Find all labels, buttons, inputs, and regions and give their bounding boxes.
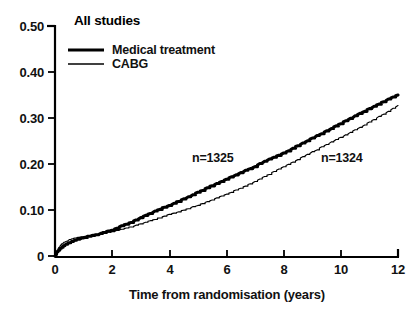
x-tick-label-8: 8: [270, 262, 298, 277]
y-tick-label-010: 0.10: [0, 203, 44, 218]
y-tick-label-020: 0.20: [0, 157, 44, 172]
x-tick-label-2: 2: [98, 262, 126, 277]
x-tick-label-6: 6: [213, 262, 241, 277]
y-tick-label-050: 0.50: [0, 19, 44, 34]
x-axis-title: Time from randomisation (years): [55, 287, 399, 302]
x-tick-label-10: 10: [327, 262, 355, 277]
series-group: [55, 95, 398, 256]
y-tick-label-0: 0: [0, 249, 44, 264]
x-tick-label-12: 12: [384, 262, 412, 277]
chart-title: All studies: [74, 13, 140, 28]
axis-group: [47, 25, 399, 257]
x-tick-label-0: 0: [41, 262, 69, 277]
figure-container: All studies 0.50 0.40 0.30 0.20 0.10 0 0…: [0, 0, 417, 317]
legend-label-medical-treatment: Medical treatment: [112, 43, 215, 57]
annotation-medical-n: n=1325: [192, 151, 234, 165]
legend-line-swatches: [68, 50, 104, 64]
legend-label-cabg: CABG: [112, 57, 148, 71]
annotation-cabg-n: n=1324: [321, 151, 363, 165]
series-line-medical-treatment: [55, 95, 398, 256]
y-tick-label-030: 0.30: [0, 111, 44, 126]
y-tick-label-040: 0.40: [0, 65, 44, 80]
x-tick-label-4: 4: [156, 262, 184, 277]
